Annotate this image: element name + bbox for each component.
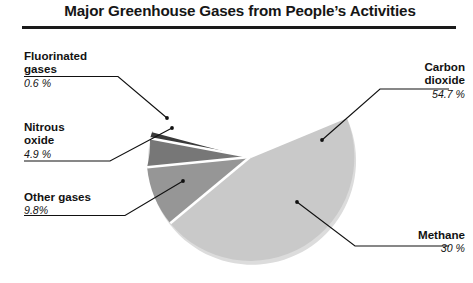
pie-chart-graphic [0,0,473,283]
leader-dot-carbon-dioxide [320,138,324,142]
pie-label-percent-methane: 30 % [418,241,465,255]
pie-label-methane: Methane 30 % [418,228,465,255]
leader-dot-nitrous-oxide [170,126,174,130]
pie-label-carbon-dioxide: Carbon dioxide 54.7 % [424,60,465,101]
pie-label-percent-carbon-dioxide: 54.7 % [424,87,465,101]
leader-dot-fluorinated-gases [165,116,169,120]
pie-label-percent-fluorinated-gases: 0.6 % [24,76,87,90]
pie-label-name-carbon-dioxide: Carbon dioxide [424,60,465,87]
pie-label-percent-nitrous-oxide: 4.9 % [24,147,65,161]
pie-label-percent-other-gases: 9.8% [24,203,91,217]
pie-slices [147,117,356,265]
pie-label-fluorinated-gases: Fluorinated gases 0.6 % [24,49,87,90]
pie-label-name-methane: Methane [418,228,465,241]
chart-figure: Major Greenhouse Gases from People’s Act… [0,0,473,283]
pie-label-name-fluorinated-gases: Fluorinated gases [24,49,87,76]
leader-dot-other-gases [181,179,185,183]
pie-label-name-other-gases: Other gases [24,190,91,203]
pie-label-nitrous-oxide: Nitrous oxide 4.9 % [24,120,65,161]
pie-label-name-nitrous-oxide: Nitrous oxide [24,120,65,147]
leader-dot-methane [295,200,299,204]
pie-label-other-gases: Other gases 9.8% [24,190,91,217]
